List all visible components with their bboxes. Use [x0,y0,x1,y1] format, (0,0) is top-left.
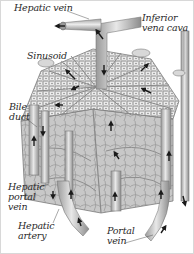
label-portal-vein: Portal vein [107,226,135,246]
lobule-illustration [1,1,194,254]
label-sinusoid: Sinusoid [27,51,67,61]
label-inferior-vena-cava: Inferior vena cava [142,13,188,33]
label-hepatic-portal-vein: Hepatic portal vein [8,182,44,212]
label-hepatic-artery: Hepatic artery [18,221,54,241]
label-hepatic-vein: Hepatic vein [14,3,73,13]
liver-lobule-diagram: Hepatic vein Inferior vena cava Sinusoid… [0,0,194,254]
label-bile-duct: Bile duct [9,102,30,122]
